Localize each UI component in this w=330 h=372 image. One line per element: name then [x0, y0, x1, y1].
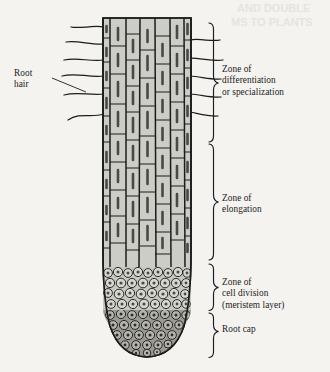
brace-root-cap: [209, 313, 219, 358]
root-hairs-left: [62, 26, 104, 120]
meristem-cells-region: [100, 266, 194, 312]
label-root-cap: Root cap: [222, 324, 256, 335]
label-zone-of-differentiation: Zone of differentiation or specializatio…: [222, 64, 284, 98]
brace-zone-cell-division: [209, 264, 219, 311]
root-hairs-right: [190, 39, 223, 116]
root-tip-diagram: AND DOUBLE MS TO PLANTS: [0, 0, 330, 372]
label-zone-of-cell-division: Zone of cell division (meristem layer): [222, 277, 285, 311]
root-illustration: [0, 0, 330, 372]
brace-zone-elongation: [209, 144, 219, 260]
root-hair-leader-line: [52, 78, 86, 92]
zone-braces: [209, 23, 219, 358]
label-root-hair: Root hair: [14, 68, 32, 91]
label-zone-of-elongation: Zone of elongation: [222, 193, 262, 216]
